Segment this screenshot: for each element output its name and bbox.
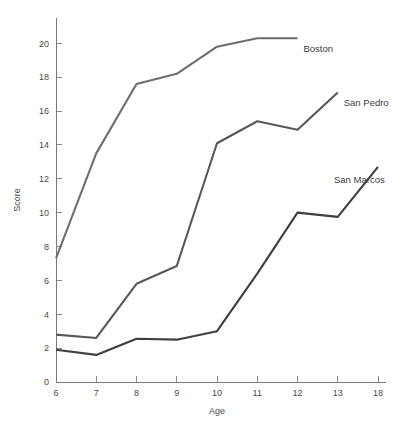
series-line-boston bbox=[56, 38, 298, 258]
x-tick-label: 12 bbox=[292, 388, 302, 398]
series-label-san-marcos: San Marcos bbox=[334, 174, 385, 185]
y-tick-label: 10 bbox=[39, 208, 49, 218]
x-tick-label: 11 bbox=[253, 388, 262, 398]
y-axis-title: Score bbox=[12, 188, 22, 212]
y-tick-label: 12 bbox=[39, 174, 49, 184]
y-tick-label: 0 bbox=[44, 377, 49, 387]
series-label-boston: Boston bbox=[304, 43, 334, 54]
x-axis-ticks: 67891011121318 bbox=[53, 376, 383, 398]
series-label-san-pedro: San Pedro bbox=[344, 97, 389, 108]
x-tick-label: 6 bbox=[53, 388, 58, 398]
y-tick-label: 8 bbox=[44, 242, 49, 252]
y-tick-label: 4 bbox=[44, 310, 49, 320]
y-tick-label: 16 bbox=[39, 106, 49, 116]
series-labels: BostonSan PedroSan Marcos bbox=[304, 43, 389, 185]
line-chart: 02468101214161820 67891011121318 BostonS… bbox=[0, 0, 394, 430]
x-tick-label: 18 bbox=[373, 388, 383, 398]
x-tick-label: 13 bbox=[333, 388, 343, 398]
x-tick-label: 8 bbox=[134, 388, 139, 398]
x-tick-label: 9 bbox=[174, 388, 179, 398]
x-tick-label: 7 bbox=[94, 388, 99, 398]
x-axis-title: Age bbox=[209, 406, 225, 416]
y-tick-label: 2 bbox=[44, 343, 49, 353]
y-tick-label: 20 bbox=[39, 39, 49, 49]
y-tick-label: 14 bbox=[39, 140, 49, 150]
chart-plot-area: 02468101214161820 67891011121318 BostonS… bbox=[0, 0, 394, 430]
y-tick-label: 6 bbox=[44, 276, 49, 286]
series-lines bbox=[56, 38, 378, 355]
y-tick-label: 18 bbox=[39, 72, 49, 82]
x-tick-label: 10 bbox=[212, 388, 222, 398]
